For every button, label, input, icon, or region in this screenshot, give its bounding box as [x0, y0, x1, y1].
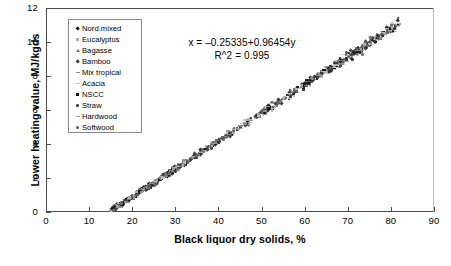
- legend-marker-icon: [73, 38, 82, 41]
- legend-label: Straw: [82, 100, 102, 111]
- data-point: [310, 78, 313, 79]
- data-point: [249, 119, 252, 120]
- data-point: [276, 101, 279, 104]
- data-point: [302, 88, 305, 91]
- y-tick-label: 12: [16, 2, 38, 13]
- data-point: [316, 78, 318, 80]
- data-point: [237, 128, 240, 129]
- data-point: [271, 109, 274, 112]
- legend-marker-icon: [73, 83, 82, 84]
- data-point: [339, 63, 343, 64]
- data-point: [274, 106, 277, 109]
- data-point: [179, 166, 182, 167]
- data-point: [263, 110, 267, 111]
- data-point: [195, 157, 198, 160]
- legend-item: Nord.mixed: [73, 23, 141, 34]
- x-tick: [132, 207, 133, 212]
- data-point: [192, 156, 195, 157]
- data-point: [373, 39, 377, 40]
- data-point: [206, 148, 211, 153]
- legend-label: Softwood: [82, 122, 114, 133]
- y-tick: [46, 144, 51, 145]
- legend-item: Bagasse: [73, 45, 141, 56]
- data-point: [257, 115, 261, 116]
- x-tick: [391, 207, 392, 212]
- fit-equation-line: x = –0.25335+0.96454y: [178, 36, 306, 49]
- data-point: [345, 61, 348, 62]
- legend: Nord.mixedEucalyptusBagasseBambooMix tro…: [68, 19, 142, 133]
- data-point: [348, 52, 350, 54]
- y-tick: [46, 76, 51, 77]
- data-point: [333, 69, 336, 70]
- data-point: [264, 106, 267, 107]
- x-tick-label: 80: [376, 215, 406, 226]
- data-point: [361, 51, 363, 53]
- legend-marker-icon: [73, 27, 82, 30]
- legend-label: Acacia: [82, 78, 105, 89]
- data-point: [361, 53, 364, 56]
- data-point: [304, 85, 308, 86]
- data-point: [335, 64, 337, 66]
- data-point: [356, 53, 358, 55]
- scatter-chart: 0102030405060708090 024681012 Black liqu…: [0, 0, 451, 266]
- data-point: [224, 136, 227, 137]
- x-tick-label: 30: [160, 215, 190, 226]
- fit-equation-annotation: x = –0.25335+0.96454y R^2 = 0.995: [178, 36, 306, 62]
- data-point: [304, 81, 308, 82]
- legend-label: Nord.mixed: [82, 23, 121, 34]
- x-tick: [434, 207, 435, 212]
- data-point: [143, 187, 147, 188]
- data-point: [289, 95, 292, 98]
- data-point: [138, 192, 140, 194]
- data-point: [154, 183, 157, 186]
- legend-marker-icon: [73, 126, 82, 129]
- data-point: [217, 141, 220, 144]
- x-tick-label: 70: [333, 215, 363, 226]
- x-tick-label: 10: [74, 215, 104, 226]
- data-point: [157, 181, 159, 183]
- data-point: [127, 199, 130, 200]
- x-tick-label: 20: [117, 215, 147, 226]
- legend-item: Acacia: [73, 78, 141, 89]
- legend-marker-icon: [73, 93, 82, 96]
- data-point: [163, 176, 167, 177]
- legend-marker-icon: [73, 60, 82, 63]
- data-point: [279, 101, 283, 105]
- y-tick: [46, 178, 51, 179]
- x-tick: [305, 207, 306, 212]
- x-axis-title: Black liquor dry solids, %: [46, 233, 434, 245]
- data-point: [124, 201, 127, 202]
- data-point: [228, 136, 231, 139]
- legend-label: Mix tropical: [82, 67, 121, 78]
- data-point: [379, 37, 382, 40]
- data-point: [329, 65, 331, 67]
- x-tick: [262, 207, 263, 212]
- legend-item: Softwood: [73, 122, 141, 133]
- y-tick: [46, 42, 51, 43]
- x-tick-label: 60: [290, 215, 320, 226]
- legend-label: NSCC: [82, 89, 104, 100]
- x-tick: [348, 207, 349, 212]
- legend-item: Mix tropical: [73, 67, 141, 78]
- legend-item: Bamboo: [73, 56, 141, 67]
- data-point: [183, 161, 186, 164]
- data-point: [147, 184, 150, 187]
- data-point: [116, 205, 118, 207]
- data-point: [332, 65, 336, 66]
- x-tick: [218, 207, 219, 212]
- data-point: [363, 43, 366, 46]
- legend-label: Bamboo: [82, 56, 111, 67]
- data-point: [300, 84, 303, 85]
- legend-marker-icon: [73, 104, 82, 107]
- data-point: [118, 206, 122, 207]
- data-point: [161, 177, 165, 178]
- x-tick: [175, 207, 176, 212]
- legend-item: Eucalyptus: [73, 34, 141, 45]
- y-tick: [46, 8, 51, 9]
- legend-marker-icon: [73, 72, 82, 73]
- legend-item: Hardwood: [73, 111, 141, 122]
- data-point: [268, 103, 272, 104]
- data-point: [171, 171, 174, 172]
- y-tick-label: 0: [16, 206, 38, 217]
- data-point: [211, 145, 213, 147]
